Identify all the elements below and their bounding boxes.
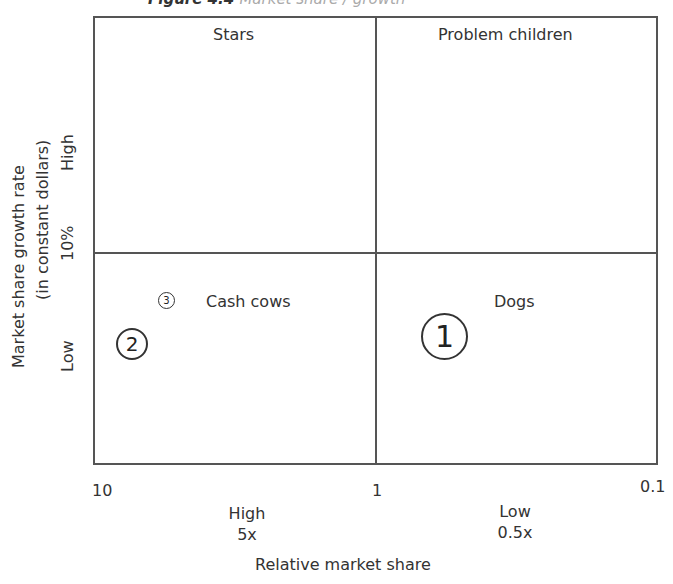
quadrant-cash-cows-label: Cash cows xyxy=(206,292,291,311)
x-tick-1: 1 xyxy=(372,481,382,500)
marker-1: 1 xyxy=(421,313,468,360)
y-mid-label: 10% xyxy=(58,225,77,261)
y-high-label: High xyxy=(58,134,77,171)
x-high-label: High 5x xyxy=(222,503,272,545)
x-low-label: Low 0.5x xyxy=(490,501,540,543)
figure-title-bold: Figure 4.4 xyxy=(148,0,234,8)
y-low-label: Low xyxy=(58,340,77,372)
x-axis-title: Relative market share xyxy=(255,555,431,574)
marker-3: 3 xyxy=(158,292,175,309)
horizontal-divider xyxy=(93,252,658,254)
marker-2: 2 xyxy=(116,328,148,360)
quadrant-stars-label: Stars xyxy=(213,25,254,44)
y-axis-title-line1: Market share growth rate xyxy=(9,165,28,368)
figure-title-rest: Market share / growth xyxy=(239,0,405,8)
x-tick-0-1: 0.1 xyxy=(640,477,665,496)
y-axis-title-line2: (in constant dollars) xyxy=(33,140,52,300)
quadrant-dogs-label: Dogs xyxy=(494,292,535,311)
vertical-divider xyxy=(375,16,377,465)
x-tick-10: 10 xyxy=(92,481,112,500)
quadrant-problem-children-label: Problem children xyxy=(438,25,573,44)
figure-title: Figure 4.4 Market share / growth xyxy=(148,0,405,8)
